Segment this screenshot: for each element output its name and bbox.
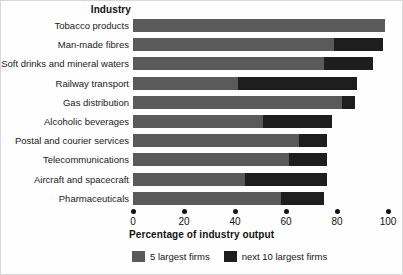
category-label: Gas distribution [1,96,129,109]
stacked-bar[interactable] [133,96,355,109]
page-title: Industry [1,4,131,15]
legend-swatch-icon [132,251,145,262]
bar-segment-five-largest[interactable] [133,192,281,205]
x-axis-tick-label: 0 [130,216,136,227]
x-axis-tick-mark [284,209,289,214]
x-axis-tick-mark [386,209,391,214]
bar-segment-next-ten-largest[interactable] [342,96,355,109]
bar-segment-five-largest[interactable] [133,57,324,70]
legend-label: next 10 largest firms [242,251,328,262]
x-axis-tick-mark [335,209,340,214]
x-axis-tick-label: 40 [229,216,240,227]
x-axis-title: Percentage of industry output [129,229,274,240]
bar-segment-five-largest[interactable] [133,134,299,147]
chart-row: Telecommunications [1,152,403,171]
bar-segment-next-ten-largest[interactable] [238,77,358,90]
legend-item-five_largest[interactable]: 5 largest firms [132,251,210,262]
category-label: Alcoholic beverages [1,115,129,128]
stacked-bar[interactable] [133,173,327,186]
legend: 5 largest firmsnext 10 largest firms [132,251,327,262]
category-label: Pharmaceuticals [1,192,129,205]
category-label: Tobacco products [1,19,129,32]
stacked-bar[interactable] [133,153,327,166]
chart-row: Alcoholic beverages [1,114,403,133]
category-label: Railway transport [1,77,129,90]
x-axis-tick-label: 80 [331,216,342,227]
bar-segment-next-ten-largest[interactable] [299,134,327,147]
chart-figure: Industry Tobacco productsMan-made fibres… [0,0,403,275]
chart-row: Pharmaceuticals [1,191,403,210]
chart-row: Gas distribution [1,95,403,114]
legend-swatch-icon [224,251,237,262]
bar-segment-five-largest[interactable] [133,77,238,90]
stacked-bar[interactable] [133,77,357,90]
bar-segment-five-largest[interactable] [133,96,342,109]
plot-area: Tobacco productsMan-made fibresSoft drin… [1,18,403,211]
category-label: Soft drinks and mineral waters [1,57,129,70]
bar-segment-five-largest[interactable] [133,115,263,128]
stacked-bar[interactable] [133,115,332,128]
chart-row: Man-made fibres [1,37,403,56]
x-axis-tick-label: 20 [178,216,189,227]
bar-segment-five-largest[interactable] [133,173,245,186]
x-axis-tick-label: 100 [380,216,397,227]
bar-segment-next-ten-largest[interactable] [263,115,332,128]
stacked-bar[interactable] [133,38,383,51]
chart-row: Aircraft and spacecraft [1,172,403,191]
x-axis-tick-mark [182,209,187,214]
bar-segment-five-largest[interactable] [133,19,385,32]
category-label: Postal and courier services [1,134,129,147]
legend-item-next_ten_largest[interactable]: next 10 largest firms [224,251,328,262]
stacked-bar[interactable] [133,134,327,147]
bar-segment-next-ten-largest[interactable] [334,38,382,51]
stacked-bar[interactable] [133,192,324,205]
bar-segment-next-ten-largest[interactable] [289,153,327,166]
stacked-bar[interactable] [133,19,385,32]
chart-row: Postal and courier services [1,133,403,152]
chart-row: Railway transport [1,76,403,95]
chart-row: Soft drinks and mineral waters [1,56,403,75]
category-label: Aircraft and spacecraft [1,173,129,186]
x-axis-tick-label: 60 [280,216,291,227]
bar-segment-next-ten-largest[interactable] [281,192,324,205]
category-label: Man-made fibres [1,38,129,51]
bar-segment-next-ten-largest[interactable] [245,173,327,186]
chart-row: Tobacco products [1,18,403,37]
x-axis-tick-mark [131,209,136,214]
x-axis-tick-mark [233,209,238,214]
bar-segment-five-largest[interactable] [133,38,334,51]
bar-segment-five-largest[interactable] [133,153,289,166]
legend-label: 5 largest firms [150,251,210,262]
stacked-bar[interactable] [133,57,373,70]
category-label: Telecommunications [1,153,129,166]
bar-segment-next-ten-largest[interactable] [324,57,372,70]
